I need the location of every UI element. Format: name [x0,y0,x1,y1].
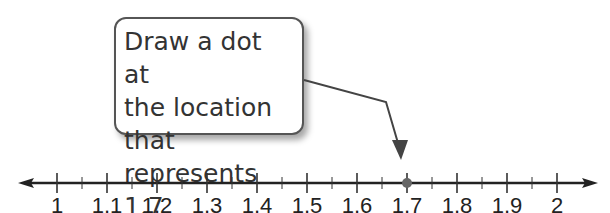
tick-label: 2 [551,193,563,213]
ticks [57,173,557,193]
pointer-arrowhead [392,140,408,160]
tick-label: 1.2 [142,193,173,213]
callout-pointer [304,80,400,150]
point-1-7[interactable] [402,178,412,188]
tick-label: 1.6 [342,193,373,213]
tick-label: 1.7 [392,193,423,213]
tick-label: 1 [51,193,63,213]
tick-label: 1.8 [442,193,473,213]
tick-label: 1.3 [192,193,223,213]
tick-label: 1.9 [492,193,523,213]
tick-label: 1.4 [242,193,273,213]
tick-label: 1.1 [92,193,123,213]
tick-labels: 11.11.21.31.41.51.61.71.81.92 [51,193,563,213]
tick-label: 1.5 [292,193,323,213]
number-line: 11.11.21.31.41.51.61.71.81.92 [0,0,610,213]
